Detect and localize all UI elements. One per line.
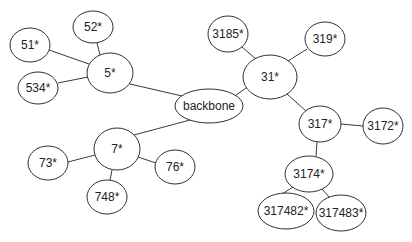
node-label: 3174* [293, 167, 325, 181]
node-label: 76* [166, 160, 184, 174]
node-n317: 317* [299, 106, 341, 142]
edge-n3174-n317483 [322, 189, 330, 198]
edge-n31-n3185 [242, 47, 256, 59]
node-label: 317* [308, 117, 333, 131]
node-label: backbone [183, 99, 235, 113]
node-label: 5* [104, 66, 116, 80]
node-n3174: 3174* [285, 156, 333, 192]
node-label: 52* [84, 20, 102, 34]
node-n73: 73* [28, 146, 68, 180]
nodes-layer: backbone5*52*51*534*7*73*76*748*31*3185*… [10, 11, 403, 231]
edge-n7-n748 [110, 170, 112, 180]
edge-n5-backbone [130, 84, 182, 96]
edge-n31-n317 [287, 94, 306, 111]
node-n7: 7* [94, 128, 140, 170]
node-label: 534* [26, 81, 51, 95]
node-n317482: 317482* [258, 193, 314, 229]
node-label: 7* [111, 142, 123, 156]
node-n3185: 3185* [208, 16, 248, 52]
edge-n31-n319 [288, 49, 307, 61]
node-label: 73* [39, 156, 57, 170]
node-n3172: 3172* [363, 108, 403, 144]
node-label: 317482* [264, 204, 309, 218]
node-n76: 76* [155, 150, 195, 184]
edge-n7-n76 [138, 157, 156, 163]
node-label: 3172* [367, 119, 399, 133]
edge-n317-n3172 [341, 124, 363, 126]
edge-n317-n3174 [316, 142, 317, 156]
node-n52: 52* [73, 11, 113, 43]
edge-n7-n73 [68, 155, 95, 162]
node-label: 3185* [212, 27, 244, 41]
node-label: 748* [95, 190, 120, 204]
edge-n5-n534 [58, 77, 88, 83]
edge-n7-backbone [134, 120, 190, 135]
node-n534: 534* [18, 72, 58, 104]
node-n748: 748* [87, 180, 127, 214]
tree-diagram: backbone5*52*51*534*7*73*76*748*31*3185*… [0, 0, 412, 242]
edge-n5-n52 [97, 43, 100, 55]
node-n5: 5* [87, 53, 133, 93]
node-n319: 319* [305, 22, 345, 56]
node-n317483: 317483* [316, 195, 366, 231]
node-backbone: backbone [175, 89, 243, 123]
node-label: 317483* [319, 206, 364, 220]
edge-n5-n51 [49, 50, 89, 64]
node-label: 319* [313, 32, 338, 46]
node-n51: 51* [10, 28, 50, 62]
node-label: 31* [261, 70, 279, 84]
node-label: 51* [21, 38, 39, 52]
node-n31: 31* [243, 55, 297, 99]
